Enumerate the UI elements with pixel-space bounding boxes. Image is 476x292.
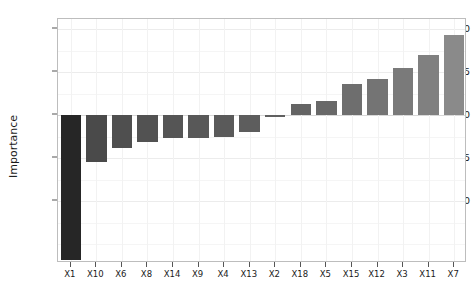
x-axis-tick-mark	[402, 262, 403, 267]
x-axis-tick-label-x5: X5	[320, 269, 331, 279]
x-axis-tick-label-x8: X8	[141, 269, 152, 279]
bar-x3	[393, 68, 413, 115]
gridline-vertical	[326, 19, 327, 261]
bar-x13	[239, 115, 259, 132]
bar-x15	[342, 84, 362, 115]
bar-x7	[444, 35, 464, 115]
x-axis-tick-mark	[121, 262, 122, 267]
x-axis-tick-mark	[351, 262, 352, 267]
gridline-vertical	[301, 19, 302, 261]
x-axis-tick-label-x4: X4	[218, 269, 229, 279]
x-axis-tick-label-x7: X7	[448, 269, 459, 279]
x-axis-tick-label-x15: X15	[343, 269, 360, 279]
bar-x5	[316, 101, 336, 116]
gridline-vertical	[173, 19, 174, 261]
x-axis-tick-mark	[70, 262, 71, 267]
x-axis-tick-mark	[95, 262, 96, 267]
x-axis-tick-label-x14: X14	[164, 269, 181, 279]
bar-x14	[163, 115, 183, 138]
bar-x8	[137, 115, 157, 142]
x-axis-tick-mark	[325, 262, 326, 267]
x-axis-tick-mark	[428, 262, 429, 267]
x-axis-tick-label-x10: X10	[87, 269, 104, 279]
gridline-vertical	[199, 19, 200, 261]
x-axis-tick-mark	[300, 262, 301, 267]
bar-x1	[61, 115, 81, 259]
x-axis-tick-mark	[453, 262, 454, 267]
gridline-vertical	[275, 19, 276, 261]
x-axis-tick-mark	[274, 262, 275, 267]
x-axis-tick-mark	[198, 262, 199, 267]
gridline-vertical	[352, 19, 353, 261]
bar-x11	[418, 55, 438, 115]
plot-area	[57, 18, 466, 262]
bar-x6	[112, 115, 132, 148]
x-axis-tick-mark	[172, 262, 173, 267]
gridline-vertical	[378, 19, 379, 261]
y-axis-title: Importance	[4, 0, 24, 292]
gridline-vertical	[403, 19, 404, 261]
x-axis-tick-label-x1: X1	[64, 269, 75, 279]
bar-x10	[86, 115, 106, 161]
gridline-vertical	[250, 19, 251, 261]
x-axis-tick-mark	[377, 262, 378, 267]
y-axis-title-text: Importance	[8, 114, 21, 177]
bar-x4	[214, 115, 234, 136]
bar-x2	[265, 115, 285, 117]
x-axis-tick-label-x13: X13	[240, 269, 257, 279]
x-axis-tick-label-x12: X12	[368, 269, 385, 279]
x-axis-tick-label-x3: X3	[396, 269, 407, 279]
x-axis-tick-mark	[249, 262, 250, 267]
gridline-vertical	[224, 19, 225, 261]
x-axis-tick-label-x2: X2	[269, 269, 280, 279]
x-axis-tick-mark	[146, 262, 147, 267]
importance-bar-chart: Importance 5.02.50.0-2.5-5.0 X1X10X6X8X1…	[0, 0, 476, 292]
bar-x18	[291, 104, 311, 115]
bar-x12	[367, 79, 387, 115]
x-axis-tick-label-x9: X9	[192, 269, 203, 279]
x-axis-tick-label-x11: X11	[419, 269, 436, 279]
x-axis-tick-mark	[223, 262, 224, 267]
x-axis-tick-label-x6: X6	[115, 269, 126, 279]
x-axis-tick-label-x18: X18	[292, 269, 309, 279]
bar-x9	[188, 115, 208, 137]
